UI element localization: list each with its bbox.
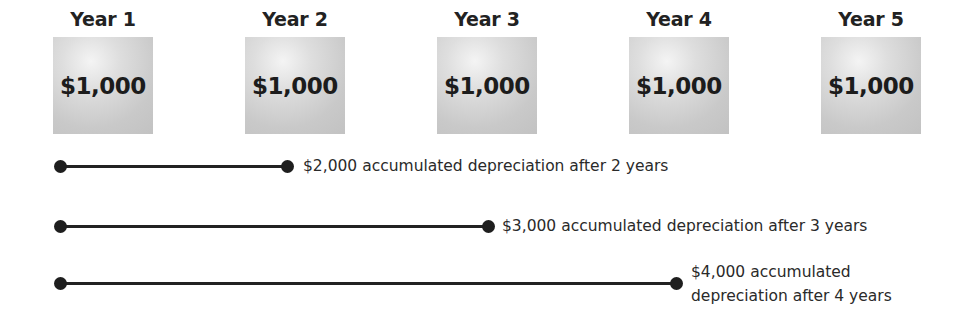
timeline-line bbox=[61, 282, 676, 285]
start-dot-icon bbox=[54, 277, 67, 290]
start-dot-icon bbox=[54, 220, 67, 233]
timeline-caption-line-1: $4,000 accumulated bbox=[691, 261, 851, 283]
end-dot-icon bbox=[670, 277, 683, 290]
depreciation-box: $1,000 bbox=[821, 37, 921, 134]
year-label: Year 2 bbox=[225, 8, 365, 30]
depreciation-box: $1,000 bbox=[53, 37, 153, 134]
amount: $1,000 bbox=[636, 73, 722, 99]
timeline-caption: $2,000 accumulated depreciation after 2 … bbox=[303, 155, 668, 177]
timeline-caption-line-2: depreciation after 4 years bbox=[691, 285, 892, 307]
timeline-line bbox=[61, 225, 488, 228]
amount: $1,000 bbox=[60, 73, 146, 99]
timeline-caption: $3,000 accumulated depreciation after 3 … bbox=[502, 215, 867, 237]
depreciation-box: $1,000 bbox=[245, 37, 345, 134]
amount: $1,000 bbox=[828, 73, 914, 99]
depreciation-box: $1,000 bbox=[629, 37, 729, 134]
amount: $1,000 bbox=[444, 73, 530, 99]
depreciation-box: $1,000 bbox=[437, 37, 537, 134]
year-label: Year 5 bbox=[801, 8, 941, 30]
start-dot-icon bbox=[54, 160, 67, 173]
end-dot-icon bbox=[281, 160, 294, 173]
timeline-line bbox=[61, 165, 287, 168]
year-label: Year 4 bbox=[609, 8, 749, 30]
year-label: Year 3 bbox=[417, 8, 557, 30]
amount: $1,000 bbox=[252, 73, 338, 99]
end-dot-icon bbox=[482, 220, 495, 233]
year-label: Year 1 bbox=[33, 8, 173, 30]
